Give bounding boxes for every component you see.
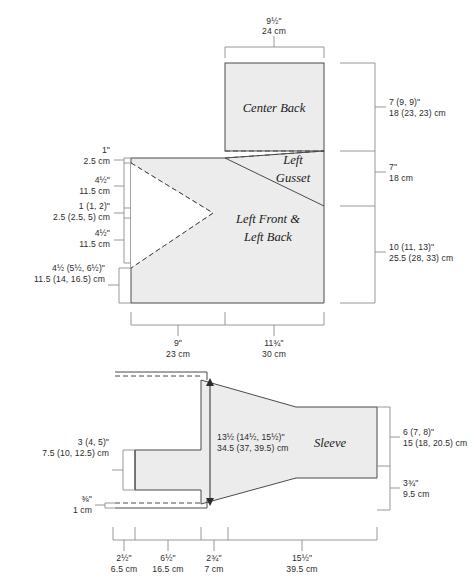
upper-segment-imperial: 4½": [95, 175, 110, 185]
sleeve-center-metric: 34.5 (37, 39.5) cm: [217, 443, 289, 453]
shoulder-edge-imperial: 1": [102, 145, 110, 155]
shoulder-edge-metric: 2.5 cm: [84, 156, 110, 166]
sleeve-taper-length-metric: 16.5 cm: [152, 564, 183, 574]
sleeve-top-tab: [115, 372, 207, 380]
side-length-imperial: 4½ (5½, 6½)": [52, 263, 105, 273]
back-width-imperial: 11¾": [264, 338, 284, 348]
armhole-notch-metric: 2.5 (2.5, 5) cm: [53, 212, 110, 222]
gusset-height-imperial: 7": [389, 162, 397, 172]
left-gusset-label-line2: Gusset: [276, 171, 311, 185]
upper-segment-metric: 11.5 cm: [79, 186, 110, 196]
sleeve-lower-depth-metric: 9.5 cm: [403, 489, 429, 499]
sleeve-upper-depth-imperial: 6 (7, 8)": [403, 427, 434, 437]
right-dimension-guides: [340, 63, 386, 303]
left-front-back-label-line1: Left Front &: [235, 212, 300, 226]
sleeve-cuff-width-imperial: 3 (4, 5)": [78, 437, 109, 447]
gusset-height-metric: 18 cm: [389, 173, 413, 183]
front-width-metric: 23 cm: [166, 349, 190, 359]
sleeve-label: Sleeve: [314, 436, 347, 450]
center-back-height-imperial: 7 (9, 9)": [389, 97, 420, 107]
bottom-dimension-guides: [131, 312, 324, 336]
sleeve-hem-metric: 1 cm: [73, 505, 92, 515]
sleeve-cuff-length-imperial: 2½": [116, 553, 131, 563]
sleeve-bottom-tab: [115, 500, 207, 508]
front-back-height-imperial: 10 (11, 13)": [389, 242, 434, 252]
side-length-metric: 11.5 (14, 16.5) cm: [34, 274, 105, 284]
armhole-notch-imperial: 1 (1, 2)": [79, 201, 110, 211]
sleeve-lower-depth-imperial: 3¾": [403, 478, 418, 488]
top-dimension-imperial: 9½": [266, 16, 281, 26]
front-width-imperial: 9": [174, 338, 182, 348]
center-back-label: Center Back: [243, 101, 306, 115]
sleeve-bottom-guides: [113, 527, 377, 551]
sleeve-cuff-width-metric: 7.5 (10, 12.5) cm: [42, 448, 109, 458]
front-back-height-metric: 25.5 (28, 33) cm: [389, 253, 453, 263]
sleeve-underarm-length-metric: 7 cm: [204, 564, 223, 574]
sleeve-left-guides: [95, 450, 135, 508]
left-dimension-guides: [108, 158, 131, 303]
top-dimension-guides: [225, 36, 324, 58]
lower-segment-imperial: 4½": [95, 228, 110, 238]
top-dimension-metric: 24 cm: [262, 26, 286, 36]
sleeve-cuff-length-metric: 6.5 cm: [111, 564, 137, 574]
sleeve-diagram: 13½ (14½, 15½)" 34.5 (37, 39.5) cm Sleev…: [42, 372, 467, 574]
sleeve-body-length-imperial: 15½": [292, 553, 312, 563]
sleeve-upper-depth-metric: 15 (18, 20.5) cm: [403, 438, 467, 448]
body-diagram: 9½" 24 cm Center Back Left Gusset Left F…: [34, 16, 453, 359]
left-gusset-label-line1: Left: [282, 153, 303, 167]
back-width-metric: 30 cm: [262, 349, 286, 359]
sleeve-hem-imperial: ⅜": [82, 494, 92, 504]
left-front-back-label-line2: Left Back: [243, 230, 292, 244]
sleeve-taper-length-imperial: 6½": [160, 553, 175, 563]
center-back-height-metric: 18 (23, 23) cm: [389, 108, 446, 118]
lower-segment-metric: 11.5 cm: [79, 239, 110, 249]
garment-schematic-diagram: 9½" 24 cm Center Back Left Gusset Left F…: [0, 0, 475, 582]
sleeve-center-imperial: 13½ (14½, 15½)": [217, 432, 285, 442]
sleeve-underarm-length-imperial: 2¾": [206, 553, 221, 563]
sleeve-body-length-metric: 39.5 cm: [286, 564, 317, 574]
sleeve-right-guides: [377, 407, 400, 510]
